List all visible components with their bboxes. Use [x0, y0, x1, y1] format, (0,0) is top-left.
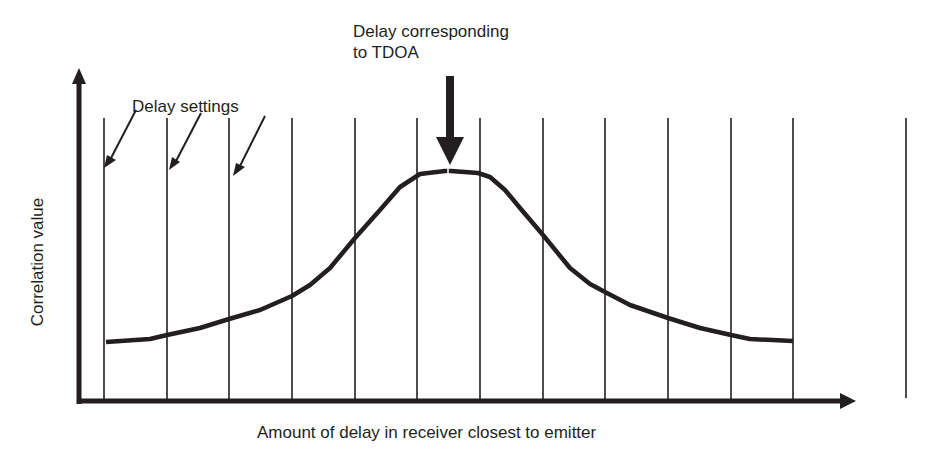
tdoa-annotation-line2: to TDOA — [353, 42, 509, 63]
delay-settings-label: Delay settings — [132, 96, 239, 117]
correlation-curve — [106, 171, 793, 342]
delay-setting-lines — [104, 118, 906, 402]
tdoa-annotation-line1: Delay corresponding — [353, 21, 509, 42]
tdoa-arrow-icon — [436, 76, 464, 165]
x-axis — [77, 393, 856, 409]
y-axis-label: Correlation value — [28, 198, 48, 327]
x-axis-label: Amount of delay in receiver closest to e… — [257, 422, 596, 443]
tdoa-annotation: Delay corresponding to TDOA — [353, 21, 509, 63]
tdoa-correlation-diagram — [0, 0, 945, 459]
y-axis — [72, 68, 86, 404]
delay-settings-arrows — [104, 110, 265, 176]
